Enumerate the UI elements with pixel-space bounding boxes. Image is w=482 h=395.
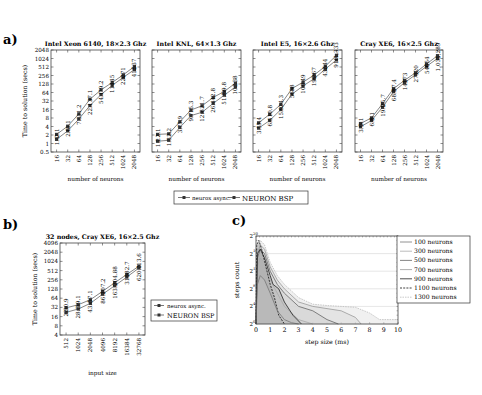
chart-b: 32 nodes, Cray XE6, 16×2.5 Ghz4816326412… (31, 233, 160, 377)
data-label: 87.4 (391, 79, 397, 92)
y-tick-label: 2048 (35, 47, 50, 53)
x-tick-label: 5 (325, 326, 329, 333)
data-label: 21.7 (199, 96, 205, 109)
figure: a) b) c) Intel Xeon 6140, 18×2.3 Ghz0.51… (0, 0, 482, 395)
chart-title: 32 nodes, Cray XE6, 16×2.5 Ghz (46, 233, 160, 241)
data-label: 24.3 (278, 94, 284, 107)
data-label: 320 (413, 65, 419, 76)
x-tick-label: 128 (391, 155, 397, 166)
y-tick-exponent: 4 (253, 301, 256, 306)
y-tick-label: 32 (42, 98, 50, 104)
chart-title: Intel KNL, 64×1.3 Ghz (157, 40, 237, 48)
y-tick-label: 64 (51, 295, 59, 301)
data-label: 145 (109, 74, 115, 85)
x-tick-label: 2 (282, 326, 286, 333)
x-tick-label: 64 (380, 155, 386, 163)
data-label: 69.8 (221, 82, 227, 95)
legend-b-bsp: NEURON BSP (167, 312, 215, 320)
x-tick-label: 128 (87, 155, 93, 166)
legend-item: 900 neurons (414, 275, 453, 282)
data-label: 30.9 (63, 298, 69, 311)
x-tick-label: 9 (382, 326, 386, 333)
y-tick-label: 0.5 (40, 149, 49, 155)
y-tick-label: 16 (42, 107, 50, 113)
y-tick-exponent: 0 (253, 319, 256, 324)
data-label: 2.1 (155, 128, 161, 137)
x-tick-label: 32 (166, 155, 172, 163)
x-tick-label: 2048 (333, 155, 339, 170)
chart-title: Cray XE6, 16×2.5 Ghz (360, 40, 438, 48)
y-tick-label: 2048 (44, 249, 59, 255)
x-tick-label: 6 (339, 326, 343, 333)
y-tick-label: 128 (47, 286, 58, 292)
legend-item: 700 neurons (414, 266, 453, 273)
y-tick-label: 16 (51, 314, 59, 320)
data-label: 138 (232, 75, 238, 86)
legend-c: 100 neurons300 neurons500 neurons700 neu… (397, 236, 470, 303)
x-tick-label: 8192 (112, 338, 118, 353)
data-label: 25.7 (380, 94, 386, 107)
x-axis-label: number of neurons (67, 176, 123, 182)
x-tick-label: 2048 (232, 155, 238, 170)
x-tick-label: 32 (369, 155, 375, 163)
legend-item: 1100 neurons (414, 284, 457, 291)
x-tick-label: 2048 (87, 338, 93, 353)
data-label: 1.2 (155, 138, 161, 147)
y-axis-label: Time to solution (secs) (31, 253, 38, 325)
chart-a4: Cray XE6, 16×2.5 Ghz16326412825651210242… (355, 40, 443, 182)
chart-a1: Intel Xeon 6140, 18×2.3 Ghz0.51248163264… (21, 40, 147, 182)
data-label: 107.2 (100, 278, 106, 294)
y-tick-label: 64 (42, 90, 50, 96)
data-label: 2.1 (54, 128, 60, 137)
x-tick-label: 512 (413, 155, 419, 166)
marker-icon (158, 304, 161, 307)
x-tick-label: 32 (267, 155, 273, 163)
chart-c: 202428212216220012345678910step size (ms… (233, 231, 402, 347)
x-tick-label: 16384 (124, 338, 130, 356)
x-tick-label: 7 (353, 326, 357, 333)
data-label: 1.3 (166, 137, 172, 146)
x-tick-label: 0 (254, 326, 258, 333)
data-label: 88 (289, 84, 295, 92)
x-tick-label: 256 (402, 155, 408, 166)
data-label: 37.1 (87, 90, 93, 102)
x-tick-label: 16 (256, 155, 262, 163)
x-tick-label: 1024 (120, 155, 126, 170)
x-tick-label: 256 (199, 155, 205, 166)
data-label: 5.4 (256, 116, 262, 125)
y-tick-label: 1024 (44, 258, 59, 264)
data-label: 267 (311, 67, 317, 78)
data-label: 15.3 (188, 100, 194, 113)
data-label: 2.2 (166, 127, 172, 136)
data-label: 6.5 (267, 117, 273, 126)
y-tick-label: 1024 (35, 56, 50, 62)
legend-b-async: neurox async. (167, 303, 206, 310)
x-tick-label: 10 (394, 326, 402, 333)
data-label: 22.1 (87, 103, 93, 115)
panel-label-c: c) (232, 213, 246, 228)
x-axis-label: step size (ms) (305, 338, 349, 346)
legend-item: 1300 neurons (414, 293, 457, 300)
legend-item: 500 neurons (414, 256, 453, 263)
panel-label-a: a) (3, 32, 18, 47)
x-tick-label: 8 (368, 326, 372, 333)
y-axis-label: steps count (233, 261, 241, 298)
data-label: 204.88 (112, 266, 118, 286)
data-label: 1,333 (333, 42, 339, 58)
x-tick-label: 2048 (435, 155, 441, 170)
y-tick-label: 128 (38, 81, 49, 87)
x-axis-label: number of neurons (371, 176, 427, 182)
data-label: 11.2 (76, 104, 82, 117)
data-label: 57.1 (87, 290, 93, 302)
x-tick-label: 32 (65, 155, 71, 163)
marker-icon (183, 196, 186, 199)
data-label: 10.8 (267, 104, 273, 117)
data-label: 654 (424, 56, 430, 67)
x-tick-label: 16 (358, 155, 364, 163)
legend-a-async: neurox async. (192, 195, 231, 202)
y-tick-label: 512 (47, 268, 58, 274)
x-tick-label: 1024 (221, 155, 227, 170)
y-tick-label: 256 (38, 73, 49, 79)
y-tick-exponent: 8 (253, 283, 256, 288)
y-tick-label: 256 (47, 277, 58, 283)
